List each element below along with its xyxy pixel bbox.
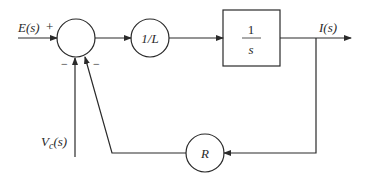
- resistor-label: R: [200, 146, 209, 161]
- summing-junction: [57, 19, 95, 57]
- minus-sign-right: −: [93, 57, 100, 71]
- input-vc-label: Vc(s): [41, 134, 67, 151]
- plus-sign: +: [46, 19, 53, 34]
- integrator-numerator: 1: [248, 22, 255, 37]
- integrator-denominator: s: [248, 42, 253, 57]
- feedback-branch: [224, 38, 316, 153]
- gain-l-label: 1/L: [141, 31, 158, 46]
- input-e-label: E(s): [17, 20, 40, 35]
- feedback-return-arrow: [85, 57, 186, 153]
- output-label: I(s): [318, 20, 337, 35]
- minus-sign-left: −: [61, 57, 68, 71]
- block-diagram: E(s) + − − 1/L 1 s I(s) R Vc(s): [0, 0, 368, 181]
